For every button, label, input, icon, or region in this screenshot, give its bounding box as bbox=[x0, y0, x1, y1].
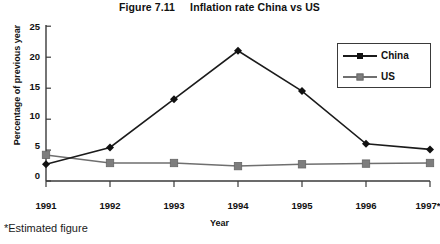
x-tick-label: 1994 bbox=[227, 200, 248, 211]
x-axis-ticks bbox=[46, 181, 430, 187]
y-tick-label: 15 bbox=[18, 82, 40, 92]
data-point-us bbox=[362, 160, 369, 167]
data-point-us bbox=[298, 161, 305, 168]
legend-marker-diamond-icon bbox=[343, 50, 377, 62]
data-point-us bbox=[426, 159, 433, 166]
x-tick-label: 1992 bbox=[99, 200, 120, 211]
x-tick-label: 1995 bbox=[291, 200, 312, 211]
legend-item-us: US bbox=[343, 68, 395, 86]
data-point-us bbox=[106, 159, 113, 166]
legend-label: US bbox=[381, 72, 395, 82]
data-point-us bbox=[42, 151, 49, 158]
y-tick-label: 10 bbox=[18, 111, 40, 121]
figure-footnote: *Estimated figure bbox=[4, 222, 88, 234]
data-point-us bbox=[170, 159, 177, 166]
x-tick-label: 1997* bbox=[416, 200, 440, 211]
legend-item-china: China bbox=[343, 47, 409, 65]
y-tick-label: 25 bbox=[18, 22, 40, 32]
x-tick-label: 1991 bbox=[35, 200, 56, 211]
x-tick-label: 1996 bbox=[355, 200, 376, 211]
chart-title: Figure 7.11 Inflation rate China vs US bbox=[0, 1, 439, 13]
y-tick-label: 20 bbox=[18, 52, 40, 62]
legend-label: China bbox=[381, 51, 409, 61]
legend-marker-square-icon bbox=[343, 71, 377, 83]
y-tick-label: 0 bbox=[18, 171, 40, 181]
y-tick-label: 5 bbox=[18, 141, 40, 151]
y-axis-tick-labels: 25 20 15 10 5 0 bbox=[18, 18, 40, 193]
series-us bbox=[42, 151, 433, 170]
data-point-us bbox=[234, 162, 241, 169]
x-axis-tick-labels: 1991 1992 1993 1994 1995 1996 1997* bbox=[0, 200, 439, 216]
chart-legend: China US bbox=[337, 43, 431, 88]
x-tick-label: 1993 bbox=[163, 200, 184, 211]
plot-area: Percentage of previous year 25 20 15 10 … bbox=[0, 18, 439, 193]
